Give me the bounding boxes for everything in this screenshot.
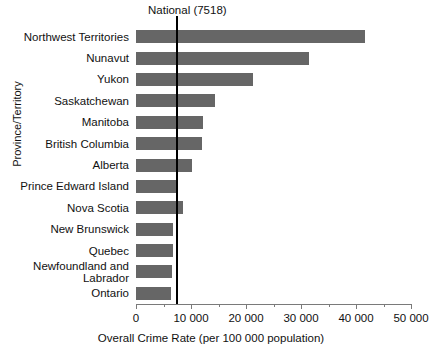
x-axis-tick-label: 20 000 [228, 312, 263, 324]
category-label: Quebec [89, 245, 129, 257]
x-axis-tick [246, 304, 247, 309]
category-label: Yukon [97, 73, 129, 85]
category-label: Prince Edward Island [20, 180, 129, 192]
x-axis-tick-label: 10 000 [173, 312, 208, 324]
x-axis-tick-label: 30 000 [283, 312, 318, 324]
bar [136, 180, 177, 193]
bar [136, 223, 173, 236]
bar [136, 159, 192, 172]
bar [136, 265, 172, 278]
x-axis-tick [136, 304, 137, 309]
bar [136, 116, 203, 129]
bar [136, 287, 171, 300]
category-label-column: Northwest TerritoriesNunavutYukonSaskatc… [0, 26, 133, 304]
x-axis-minor-tick [164, 304, 165, 307]
plot-area [136, 26, 411, 304]
x-axis-tick-label: 0 [133, 312, 139, 324]
category-label: New Brunswick [50, 223, 129, 235]
category-label: Manitoba [82, 116, 129, 128]
x-axis-tick [411, 304, 412, 309]
x-axis-minor-tick [384, 304, 385, 307]
category-label: Alberta [93, 159, 129, 171]
x-axis-tick-label: 50 000 [393, 312, 428, 324]
bar [136, 73, 253, 86]
category-label: Saskatchewan [54, 95, 129, 107]
x-axis-minor-tick [219, 304, 220, 307]
category-label: Nunavut [86, 52, 129, 64]
bar [136, 30, 365, 43]
bar [136, 52, 309, 65]
x-axis-minor-tick [329, 304, 330, 307]
national-reference-annotation: National (7518) [148, 4, 227, 16]
category-label: Ontario [91, 287, 129, 299]
x-axis-tick [301, 304, 302, 309]
category-label: Nova Scotia [67, 202, 129, 214]
category-label: Northwest Territories [24, 31, 129, 43]
bar [136, 244, 173, 257]
x-axis-title: Overall Crime Rate (per 100 000 populati… [0, 332, 422, 344]
x-axis-minor-tick [274, 304, 275, 307]
category-label: Newfoundland and Labrador [33, 260, 129, 284]
x-axis-tick [191, 304, 192, 309]
x-axis-tick [356, 304, 357, 309]
category-label: British Columbia [45, 138, 129, 150]
bar [136, 137, 202, 150]
x-axis-tick-label: 40 000 [338, 312, 373, 324]
national-reference-line [176, 16, 178, 304]
